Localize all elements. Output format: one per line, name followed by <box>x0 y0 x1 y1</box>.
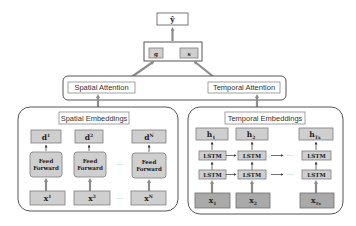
attention-container: Spatial Attention Temporal Attention <box>63 76 286 100</box>
ff2-line2: Forward <box>77 165 103 171</box>
temporal-attention-label: Temporal Attention <box>213 83 275 92</box>
lstm-1-top-label: LSTM <box>203 153 221 159</box>
temporal-ellipsis-top: ··· <box>287 152 294 159</box>
temporal-embeddings-container: Temporal Embeddings h1 LSTM LSTM x1 h2 L… <box>188 107 343 214</box>
spatial-embeddings-container: Spatial Embeddings d1 Feed Forward x1 d2… <box>18 107 178 211</box>
ff1-line1: Feed <box>39 158 54 164</box>
spatial-embeddings-title: Spatial Embeddings <box>61 114 128 123</box>
lstm-2-top-label: LSTM <box>243 153 261 159</box>
temporal-attention-node: Temporal Attention <box>208 82 280 93</box>
s-label: s <box>187 51 190 57</box>
lstm-1-bottom-label: LSTM <box>203 172 221 178</box>
output-label: ŷ <box>169 15 175 24</box>
architecture-diagram: ŷ g s Spatial Attention Temporal Attenti… <box>0 0 356 226</box>
spatial-attention-node: Spatial Attention <box>68 82 135 93</box>
temporal-ellipsis-bottom: ··· <box>287 171 294 178</box>
temporal-embeddings-title: Temporal Embeddings <box>228 114 303 123</box>
spatial-ellipsis-ff: ··· <box>117 161 124 168</box>
ffN-line2: Forward <box>136 166 162 172</box>
lstm-2-bottom-label: LSTM <box>243 172 261 178</box>
ff1-line2: Forward <box>33 165 59 171</box>
s-node: s <box>180 48 198 58</box>
spatial-ellipsis-x: ··· <box>117 195 124 202</box>
ffN-line1: Feed <box>142 159 157 165</box>
spatial-column-n: dN Feed Forward xN <box>131 130 166 205</box>
output-node: ŷ <box>157 13 188 25</box>
ff2-line1: Feed <box>83 158 98 164</box>
g-label: g <box>154 51 158 58</box>
fusion-node: g s <box>144 42 202 61</box>
g-node: g <box>149 48 163 58</box>
spatial-attention-label: Spatial Attention <box>74 83 128 92</box>
lstm-tx-top-label: LSTM <box>307 153 325 159</box>
spatial-column-1: d1 Feed Forward x1 <box>30 130 65 205</box>
lstm-tx-bottom-label: LSTM <box>307 172 325 178</box>
